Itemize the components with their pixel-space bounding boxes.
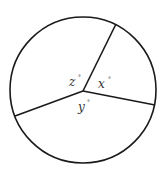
svg-text:x: x [98, 77, 105, 91]
circle-diagram: z ° x ° y ° [0, 0, 164, 182]
ray-right [83, 91, 155, 105]
angle-label-z: z ° [68, 73, 81, 89]
svg-text:°: ° [78, 73, 81, 80]
svg-text:y: y [77, 100, 85, 114]
svg-text:°: ° [108, 75, 111, 82]
svg-text:°: ° [87, 98, 90, 105]
angle-label-x: x ° [98, 75, 111, 91]
ray-left [15, 91, 83, 116]
svg-text:z: z [68, 75, 76, 89]
angle-label-y: y ° [77, 98, 90, 114]
